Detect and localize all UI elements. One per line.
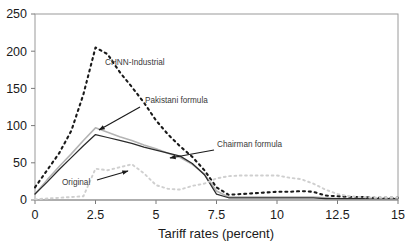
x-tick-label: 2.5 — [87, 208, 104, 222]
annotation-label-original: Original — [62, 178, 90, 187]
annotation-arrow-original — [97, 171, 128, 180]
plot-area-border — [35, 14, 398, 200]
x-axis-ticks — [35, 200, 398, 204]
y-tick-label: 0 — [20, 193, 27, 207]
y-tick-label: 100 — [6, 119, 27, 133]
tariff-rates-line-chart: 050100150200250 02.557.51012.515 CHNN-In… — [0, 0, 405, 245]
y-axis-tick-labels: 050100150200250 — [6, 7, 27, 207]
annotation-label-pakistani-formula: Pakistani formula — [145, 96, 208, 105]
y-tick-label: 250 — [6, 7, 27, 21]
y-axis-ticks — [31, 14, 35, 200]
y-tick-label: 50 — [13, 156, 27, 170]
data-series-group — [35, 47, 398, 199]
series-annotations: CHNN-IndustrialPakistani formulaChairman… — [62, 58, 283, 187]
annotation-label-chnn-industrial: CHNN-Industrial — [105, 58, 165, 67]
x-axis-title: Tariff rates (percent) — [158, 226, 274, 241]
x-tick-label: 10 — [270, 208, 284, 222]
y-tick-label: 150 — [6, 82, 27, 96]
x-axis-tick-labels: 02.557.51012.515 — [32, 208, 405, 222]
annotation-arrow-pakistani-formula — [99, 107, 140, 130]
plot-frame — [35, 14, 398, 200]
annotation-label-chairman-formula: Chairman formula — [217, 140, 283, 149]
chart-container: 050100150200250 02.557.51012.515 CHNN-In… — [0, 0, 405, 245]
x-tick-label: 12.5 — [325, 208, 349, 222]
x-tick-label: 15 — [391, 208, 405, 222]
x-tick-label: 0 — [32, 208, 39, 222]
y-tick-label: 200 — [6, 45, 27, 59]
x-tick-label: 7.5 — [208, 208, 225, 222]
series-line-0 — [35, 47, 398, 197]
x-tick-label: 5 — [153, 208, 160, 222]
